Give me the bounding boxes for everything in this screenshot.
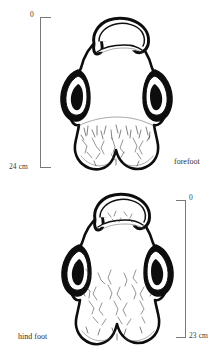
part-label-hindfoot: hind foot xyxy=(18,333,47,341)
hindfoot-right-lobe xyxy=(144,245,173,296)
scale-label-hindfoot-bottom: 23 cm xyxy=(189,332,208,340)
forefoot-right-lobe xyxy=(143,70,172,121)
figure-root: 0 24 cm forefoot xyxy=(0,0,220,362)
panel-hindfoot: 0 23 cm hind foot xyxy=(0,181,220,362)
forefoot-left-lobe xyxy=(61,70,90,121)
hindfoot-drawing xyxy=(56,191,180,347)
panel-forefoot: 0 24 cm forefoot xyxy=(0,0,220,181)
scale-label-forefoot-bottom: 24 cm xyxy=(9,163,28,171)
scale-label-forefoot-top: 0 xyxy=(30,11,34,19)
forefoot-drawing xyxy=(54,14,178,176)
scale-label-hindfoot-top: 0 xyxy=(189,194,193,202)
scale-bar-forefoot xyxy=(38,16,52,170)
